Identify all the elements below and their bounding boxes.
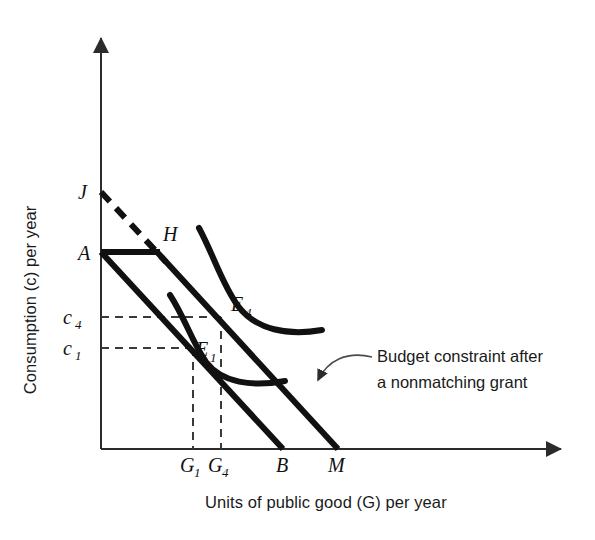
annotation-leader-arrow	[318, 355, 372, 380]
label-tick-m: M	[327, 454, 346, 476]
label-point-h: H	[162, 223, 179, 245]
label-point-e1-sub: 1	[210, 350, 217, 365]
label-tick-c4: c	[63, 306, 72, 328]
label-point-a: A	[76, 242, 91, 264]
label-point-e1: E	[195, 338, 208, 360]
label-point-j: J	[78, 181, 88, 203]
label-tick-b: B	[276, 454, 288, 476]
grant-budget-line-hm	[157, 252, 338, 449]
label-point-e4: E	[230, 293, 243, 315]
label-tick-c1-sub: 1	[75, 348, 82, 363]
x-axis-title: Units of public good (G) per year	[205, 493, 447, 511]
label-tick-g1: G	[180, 454, 195, 476]
economics-figure: J A H E 4 E 1 c 4 c 1 G 1 G 4 B M Budget…	[0, 0, 595, 540]
annotation-line-2: a nonmatching grant	[377, 373, 528, 391]
annotation-line-1: Budget constraint after	[377, 347, 544, 365]
figure-canvas: J A H E 4 E 1 c 4 c 1 G 1 G 4 B M Budget…	[0, 0, 595, 540]
label-tick-g4: G	[208, 454, 223, 476]
label-tick-g1-sub: 1	[194, 465, 201, 480]
guide-lines-group	[101, 317, 221, 449]
label-tick-c4-sub: 4	[75, 317, 82, 332]
label-tick-g4-sub: 4	[222, 465, 229, 480]
label-tick-c1: c	[63, 337, 72, 359]
y-axis-title: Consumption (c) per year	[21, 205, 39, 394]
label-point-e4-sub: 4	[245, 305, 252, 320]
